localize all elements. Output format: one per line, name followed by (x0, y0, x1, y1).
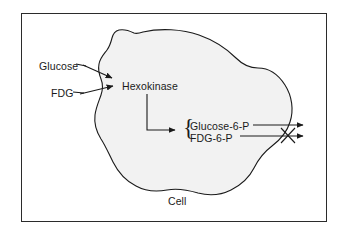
label-glucose-6-p: Glucose-6-P (190, 121, 249, 132)
cell-membrane-outline (95, 30, 292, 195)
figure-root: { Glucose FDG Hexokinase Glucose-6-P FDG… (0, 0, 349, 235)
label-cell: Cell (168, 196, 187, 207)
label-hexokinase: Hexokinase (122, 81, 178, 92)
label-glucose: Glucose (39, 61, 78, 72)
label-fdg-6-p: FDG-6-P (190, 133, 233, 144)
label-fdg: FDG (51, 88, 73, 99)
fdg-leader-line (73, 92, 84, 93)
